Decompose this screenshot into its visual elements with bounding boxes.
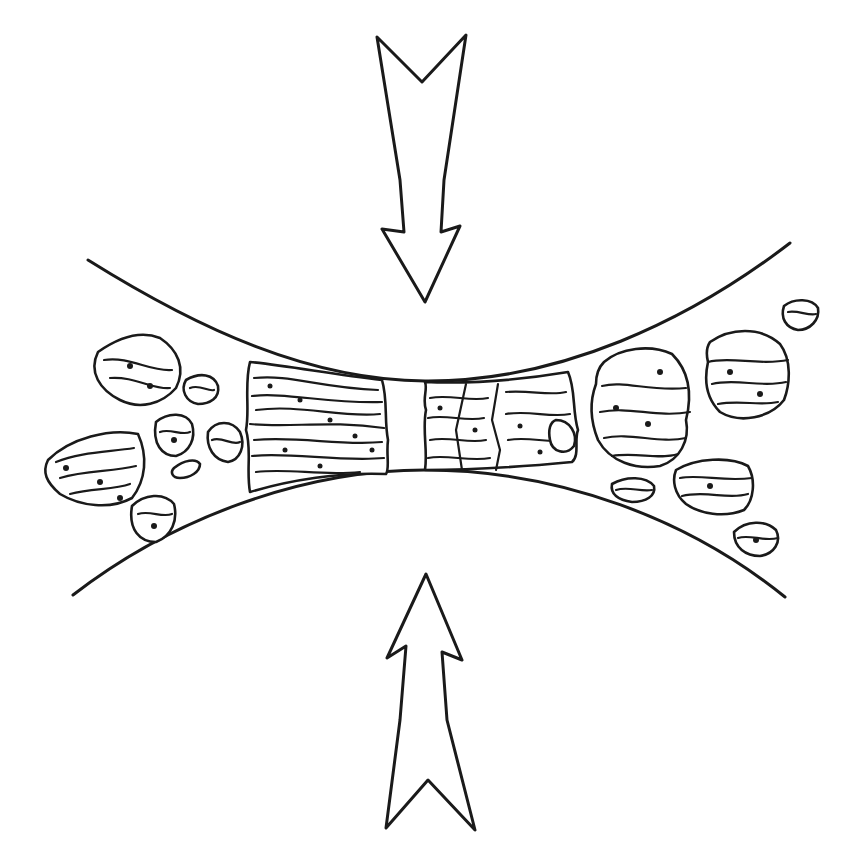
particle xyxy=(155,415,193,456)
particle xyxy=(706,331,789,418)
compressed-particle-block-right xyxy=(425,372,578,470)
particle xyxy=(45,432,144,505)
particle xyxy=(208,423,243,462)
loose-particles-left xyxy=(45,335,242,542)
particle xyxy=(131,496,175,542)
compressed-particle-block-left xyxy=(246,362,388,492)
particle xyxy=(612,478,655,502)
upper-surface xyxy=(88,243,790,381)
particle xyxy=(783,300,818,330)
compression-diagram xyxy=(0,0,853,867)
particle xyxy=(94,335,180,405)
particle xyxy=(592,348,690,467)
arrow-down-icon xyxy=(377,35,466,302)
arrow-up-icon xyxy=(386,574,475,830)
particle xyxy=(674,460,753,515)
particle xyxy=(184,375,219,404)
particle xyxy=(172,461,200,478)
particle xyxy=(734,523,778,556)
